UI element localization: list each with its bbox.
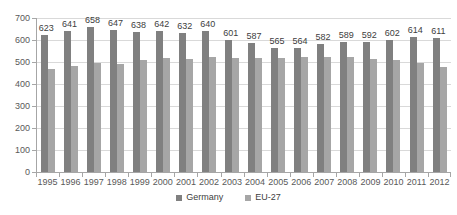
x-axis-tick — [36, 173, 37, 177]
y-axis-tick — [32, 84, 36, 85]
y-axis-tick-label: 600 — [2, 36, 30, 45]
bar-eu-27-2006 — [301, 57, 308, 172]
x-axis-tick — [197, 173, 198, 177]
bar-value-label: 640 — [200, 20, 215, 29]
x-axis-tick — [336, 173, 337, 177]
x-axis-tick-text: 2011 — [407, 177, 426, 187]
x-axis-tick-text: 2007 — [314, 177, 334, 187]
bar-group: 614 — [405, 18, 428, 172]
bar-group: 632 — [174, 18, 197, 172]
bar-value-label: 602 — [385, 29, 400, 38]
bar-germany-2012 — [433, 38, 440, 172]
bar-value-label: 565 — [269, 37, 284, 46]
x-axis-tick — [128, 173, 129, 177]
x-axis-tick — [221, 173, 222, 177]
bar-group: 601 — [221, 18, 244, 172]
chart-legend: GermanyEU-27 — [0, 193, 457, 202]
x-axis-tick — [151, 173, 152, 177]
bar-germany-2007 — [317, 44, 324, 172]
bar-germany-2000 — [156, 31, 163, 172]
bar-germany-2010 — [386, 40, 393, 172]
y-axis-tick-label: 500 — [2, 58, 30, 67]
bar-eu-27-1997 — [94, 63, 101, 172]
x-axis-tick-text: 2005 — [268, 177, 288, 187]
x-axis-tick-text: 1996 — [61, 177, 81, 187]
bar-value-label: 611 — [431, 27, 445, 36]
bar-value-label: 564 — [293, 37, 308, 46]
y-axis-tick-label: 700 — [2, 14, 30, 23]
bar-germany-2011 — [410, 37, 417, 172]
x-axis-tick-label: 1998 — [105, 173, 128, 189]
x-axis-tick-label: 1996 — [59, 173, 82, 189]
y-axis-tick — [32, 106, 36, 107]
x-axis-tick-label: 2000 — [151, 173, 174, 189]
x-axis-tick — [59, 173, 60, 177]
bar-value-label: 642 — [154, 20, 169, 29]
x-axis-tick-label: 2008 — [336, 173, 359, 189]
x-axis-tick-text: 2000 — [153, 177, 173, 187]
x-axis-tick — [450, 173, 451, 177]
bar-eu-27-2003 — [232, 58, 239, 172]
x-axis-tick — [313, 173, 314, 177]
bar-germany-1999 — [133, 32, 140, 172]
x-axis-tick-text: 1995 — [38, 177, 58, 187]
x-axis-tick-text: 1998 — [107, 177, 127, 187]
bar-group: 602 — [382, 18, 405, 172]
y-axis-tick — [32, 128, 36, 129]
x-axis-tick-label: 2003 — [221, 173, 244, 189]
bar-value-label: 647 — [108, 19, 123, 28]
bar-group: 592 — [359, 18, 382, 172]
bar-value-label: 592 — [362, 31, 377, 40]
x-axis-tick-text: 2009 — [360, 177, 380, 187]
bar-group: 638 — [128, 18, 151, 172]
x-axis-tick-label: 2004 — [244, 173, 267, 189]
x-axis-tick-text: 2010 — [383, 177, 403, 187]
legend-swatch-icon — [176, 195, 182, 201]
x-axis-tick-label: 1997 — [82, 173, 105, 189]
bar-germany-2001 — [179, 33, 186, 172]
y-axis-tick — [32, 150, 36, 151]
bar-group: 582 — [313, 18, 336, 172]
bar-germany-2008 — [340, 42, 347, 172]
y-axis-tick — [32, 40, 36, 41]
bar-germany-1995 — [41, 35, 48, 172]
bar-eu-27-2012 — [440, 67, 447, 172]
bar-eu-27-1998 — [117, 64, 124, 172]
bar-value-label: 638 — [131, 21, 146, 30]
x-axis-tick-label: 1995 — [36, 173, 59, 189]
x-axis-tick-label: 2006 — [290, 173, 313, 189]
x-axis: 1995199619971998199920002001200220032004… — [36, 173, 451, 189]
x-axis-tick-text: 2001 — [176, 177, 196, 187]
x-axis-tick — [105, 173, 106, 177]
bar-group: 565 — [267, 18, 290, 172]
x-axis-tick-text: 2012 — [430, 177, 450, 187]
x-axis-tick — [267, 173, 268, 177]
legend-item-eu-27[interactable]: EU-27 — [245, 193, 281, 202]
x-axis-tick-text: 2008 — [337, 177, 357, 187]
bar-group: 587 — [244, 18, 267, 172]
bar-chart: 7006005004003002001000 62364165864763864… — [0, 0, 457, 215]
x-axis-tick-text: 2002 — [199, 177, 219, 187]
bar-germany-1997 — [87, 27, 94, 172]
bar-germany-1996 — [64, 31, 71, 172]
x-axis-tick — [82, 173, 83, 177]
x-axis-tick-label: 2011 — [405, 173, 428, 189]
bar-eu-27-2004 — [255, 58, 262, 172]
x-axis-tick — [359, 173, 360, 177]
bar-eu-27-2007 — [324, 57, 331, 173]
x-axis-tick-label: 2007 — [313, 173, 336, 189]
bar-germany-2006 — [294, 48, 301, 172]
legend-item-germany[interactable]: Germany — [176, 193, 223, 202]
bar-group: 642 — [151, 18, 174, 172]
bar-eu-27-2000 — [163, 58, 170, 172]
bar-eu-27-2010 — [393, 60, 400, 172]
bar-eu-27-2001 — [186, 59, 193, 172]
x-axis-tick — [428, 173, 429, 177]
x-axis-tick-text: 1999 — [130, 177, 150, 187]
x-axis-tick-label: 2002 — [197, 173, 220, 189]
bar-eu-27-2008 — [347, 57, 354, 172]
bar-group: 623 — [36, 18, 59, 172]
bar-group: 641 — [59, 18, 82, 172]
bar-value-label: 641 — [62, 20, 77, 29]
y-axis-tick-label: 200 — [2, 124, 30, 133]
